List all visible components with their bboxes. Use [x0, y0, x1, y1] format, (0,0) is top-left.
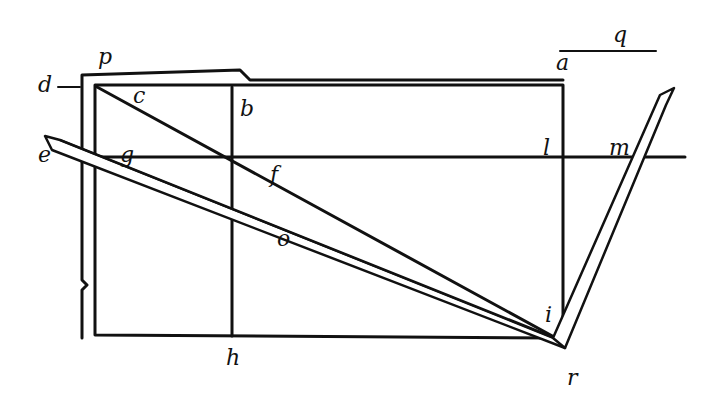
label-c: c [133, 83, 145, 108]
label-r: r [567, 365, 579, 390]
label-a: a [556, 50, 569, 75]
label-m: m [609, 135, 630, 160]
outer-frame [82, 70, 563, 338]
label-d: d [38, 72, 52, 97]
diagonal-line-pr [97, 87, 556, 338]
label-l: l [543, 135, 550, 160]
label-b: b [240, 96, 254, 121]
label-e: e [38, 142, 51, 167]
diagram-canvas: d p c b a q e g f l m o i h r [0, 0, 716, 409]
label-i: i [545, 302, 552, 327]
label-f: f [268, 162, 282, 187]
label-q: q [613, 22, 627, 47]
ruler-strip-right [553, 88, 674, 348]
label-g: g [120, 142, 134, 167]
label-h: h [226, 345, 240, 370]
label-o: o [277, 226, 290, 251]
ruler-strip-er [45, 136, 565, 348]
label-p: p [98, 44, 112, 69]
ruler-strip-er-inner-line [60, 140, 558, 340]
